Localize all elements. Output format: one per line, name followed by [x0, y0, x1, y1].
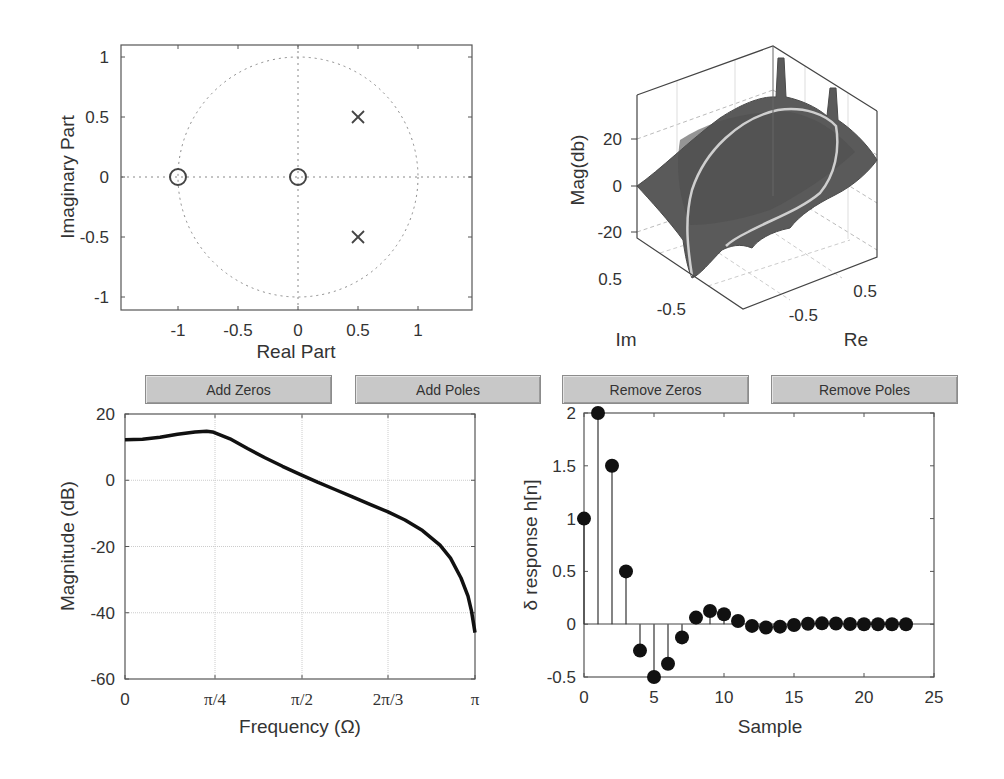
- impulse-response-xtick: 5: [649, 688, 658, 707]
- stem-marker-icon: [759, 620, 773, 634]
- impulse-response-xtick: 25: [925, 688, 944, 707]
- impulse-response-ytick: 1: [567, 510, 576, 529]
- frequency-response-xtick: π/4: [204, 690, 226, 709]
- stem-marker-icon: [829, 617, 843, 631]
- stem: [731, 614, 745, 628]
- frequency-response-xlabel: Frequency (Ω): [239, 716, 361, 737]
- surface-ztick: 20: [603, 130, 622, 149]
- stem-marker-icon: [745, 619, 759, 633]
- stem-marker-icon: [843, 617, 857, 631]
- impulse-response-plot[interactable]: 051015202521.510.50-0.5 Sample δ respons…: [520, 404, 943, 737]
- pole-zero-xtick: 0.5: [346, 321, 370, 340]
- stem-marker-icon: [703, 604, 717, 618]
- stem-marker-icon: [731, 614, 745, 628]
- frequency-response-xtick: π: [471, 690, 480, 709]
- stem-marker-icon: [787, 618, 801, 632]
- stem-marker-icon: [717, 607, 731, 621]
- stem: [857, 617, 871, 631]
- pole-zero-ylabel: Imaginary Part: [57, 115, 78, 239]
- pole-zero-ytick: 0.5: [85, 108, 109, 127]
- stem-marker-icon: [591, 406, 605, 420]
- add-zeros-button[interactable]: Add Zeros: [145, 375, 332, 404]
- surface-xtick: 0.5: [853, 282, 877, 301]
- stem: [815, 616, 829, 630]
- stem-marker-icon: [605, 459, 619, 473]
- surface-ylabel: Im: [615, 329, 636, 350]
- pole-zero-plot[interactable]: -1-0.500.5110.50-0.5-1 Real Part Imagina…: [57, 45, 472, 362]
- stem-marker-icon: [815, 616, 829, 630]
- stem-marker-icon: [619, 564, 633, 578]
- pole-zero-ytick: -0.5: [80, 228, 109, 247]
- impulse-response-ytick: -0.5: [547, 668, 576, 687]
- frequency-response-xtick: 2π/3: [373, 690, 403, 709]
- impulse-response-xtick: 0: [579, 688, 588, 707]
- frequency-response-xtick: 0: [120, 690, 129, 709]
- stem: [773, 620, 787, 634]
- frequency-response-ylabel: Magnitude (dB): [57, 481, 78, 611]
- stem: [899, 617, 913, 631]
- frequency-response-ytick: 0: [106, 471, 115, 490]
- pole-zero-ytick: 1: [100, 48, 109, 67]
- stem: [689, 611, 703, 625]
- frequency-response-ytick: -60: [90, 670, 115, 689]
- pole-zero-xtick: -0.5: [223, 321, 252, 340]
- stem-marker-icon: [801, 617, 815, 631]
- impulse-response-ytick: 0: [567, 615, 576, 634]
- impulse-response-ylabel: δ response h[n]: [520, 480, 541, 611]
- pole-zero-xtick: 0: [293, 321, 302, 340]
- surface-ytick: 0.5: [598, 270, 622, 289]
- stem-marker-icon: [885, 617, 899, 631]
- pole-zero-xtick: 1: [413, 321, 422, 340]
- frequency-response-ytick: 20: [96, 405, 115, 424]
- stem-marker-icon: [675, 630, 689, 644]
- stem: [759, 620, 773, 634]
- stem: [801, 617, 815, 631]
- stem: [745, 619, 759, 633]
- impulse-response-xtick: 20: [855, 688, 874, 707]
- impulse-response-ytick: 2: [567, 404, 576, 423]
- impulse-response-ytick: 0.5: [552, 562, 576, 581]
- stem: [885, 617, 899, 631]
- stem-marker-icon: [871, 617, 885, 631]
- stem: [871, 617, 885, 631]
- stem-marker-icon: [633, 644, 647, 658]
- add-poles-button[interactable]: Add Poles: [355, 375, 541, 404]
- remove-zeros-button[interactable]: Remove Zeros: [562, 375, 749, 404]
- surface-ztick: -20: [597, 223, 622, 242]
- frequency-response-ytick: -40: [90, 604, 115, 623]
- impulse-response-axes-box: [584, 413, 934, 677]
- stem-marker-icon: [773, 620, 787, 634]
- stem-marker-icon: [577, 512, 591, 526]
- impulse-response-xtick: 10: [715, 688, 734, 707]
- stem: [843, 617, 857, 631]
- stem: [787, 618, 801, 632]
- stem-marker-icon: [689, 611, 703, 625]
- pole-zero-xtick: -1: [170, 321, 185, 340]
- stem-marker-icon: [857, 617, 871, 631]
- impulse-response-xlabel: Sample: [738, 716, 802, 737]
- stem-marker-icon: [661, 657, 675, 671]
- magnitude-surface-plot[interactable]: 20 0 -20 0.5 -0.5 -0.5 0.5 Mag(db) Im Re: [567, 46, 877, 350]
- pole-zero-ytick: -1: [94, 288, 109, 307]
- pole-zero-ytick: 0: [100, 168, 109, 187]
- surface-ytick: -0.5: [657, 300, 686, 319]
- stem: [829, 617, 843, 631]
- frequency-response-plot[interactable]: 0π/4π/22π/3π200-20-40-60 Frequency (Ω) M…: [57, 405, 480, 737]
- stem-marker-icon: [899, 617, 913, 631]
- frequency-response-xtick: π/2: [291, 690, 313, 709]
- stem-marker-icon: [647, 670, 661, 684]
- remove-poles-button[interactable]: Remove Poles: [771, 375, 958, 404]
- impulse-response-ytick: 1.5: [552, 457, 576, 476]
- surface-xlabel: Re: [844, 329, 868, 350]
- pole-zero-xlabel: Real Part: [256, 341, 336, 362]
- surface-zlabel: Mag(db): [567, 135, 588, 206]
- impulse-response-xtick: 15: [785, 688, 804, 707]
- frequency-response-ytick: -20: [90, 538, 115, 557]
- surface-xtick: -0.5: [789, 306, 818, 325]
- surface-ztick: 0: [613, 177, 622, 196]
